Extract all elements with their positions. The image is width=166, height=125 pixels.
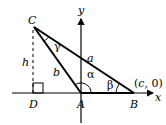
label-y: y bbox=[77, 4, 85, 17]
label-C: C bbox=[28, 14, 37, 27]
label-coord-c0: (c, 0) bbox=[134, 77, 163, 90]
label-alpha: α bbox=[87, 68, 95, 81]
label-gamma: γ bbox=[54, 40, 61, 53]
label-B: B bbox=[129, 98, 138, 111]
right-angle-marker bbox=[33, 83, 43, 93]
label-D: D bbox=[28, 98, 38, 111]
triangle-diagram: C A B D y x h b a α β γ (c, 0) bbox=[0, 0, 166, 125]
label-A: A bbox=[76, 98, 85, 111]
gamma-arc bbox=[44, 37, 49, 41]
label-b: b bbox=[53, 66, 60, 79]
label-x: x bbox=[155, 91, 162, 104]
beta-arc bbox=[116, 84, 119, 93]
label-beta: β bbox=[107, 79, 113, 92]
label-h: h bbox=[22, 56, 29, 69]
label-a: a bbox=[87, 52, 94, 65]
